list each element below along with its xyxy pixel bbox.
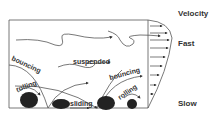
rolling-grain [127,99,137,109]
rolling-label-left: rolling [15,79,38,94]
suspended-label: suspended [73,58,110,66]
rolling-grain [20,92,38,108]
fast-label: Fast [178,39,195,48]
rolling-label-right: rolling [117,83,139,102]
bouncing-grain [97,96,115,110]
transport-diagram: Velocity Fast Slow suspended bouncing bo… [0,0,223,122]
slow-label: Slow [178,99,197,108]
sliding-label: sliding [70,100,93,108]
bouncing-label-right: bouncing [108,66,140,82]
bouncing-label-left: bouncing [10,55,42,76]
sliding-grain [52,99,70,109]
velocity-label: Velocity [178,9,209,18]
suspended-path [16,34,112,46]
